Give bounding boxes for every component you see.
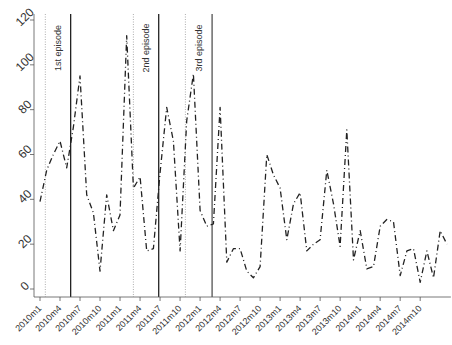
- y-tick-label: 60: [15, 142, 35, 162]
- episode-markers: [45, 14, 212, 297]
- data-line: [40, 36, 447, 283]
- y-axis: 020406080100120: [13, 5, 37, 297]
- line-chart: 1st episode2nd episode3rd episode 020406…: [0, 0, 452, 345]
- episode-label: 3rd episode: [194, 24, 204, 71]
- episode-label: 2nd episode: [141, 23, 151, 72]
- x-axis: 2010m12010m42010m72010m102011m12011m4201…: [13, 297, 451, 337]
- y-tick-label: 80: [15, 97, 35, 117]
- y-tick-label: 100: [13, 50, 37, 74]
- y-tick-label: 40: [15, 187, 35, 207]
- y-tick-label: 20: [15, 231, 35, 251]
- episode-label: 1st episode: [53, 25, 63, 71]
- y-tick-label: 0: [18, 279, 33, 294]
- data-series: [40, 36, 447, 283]
- y-tick-label: 120: [13, 5, 37, 29]
